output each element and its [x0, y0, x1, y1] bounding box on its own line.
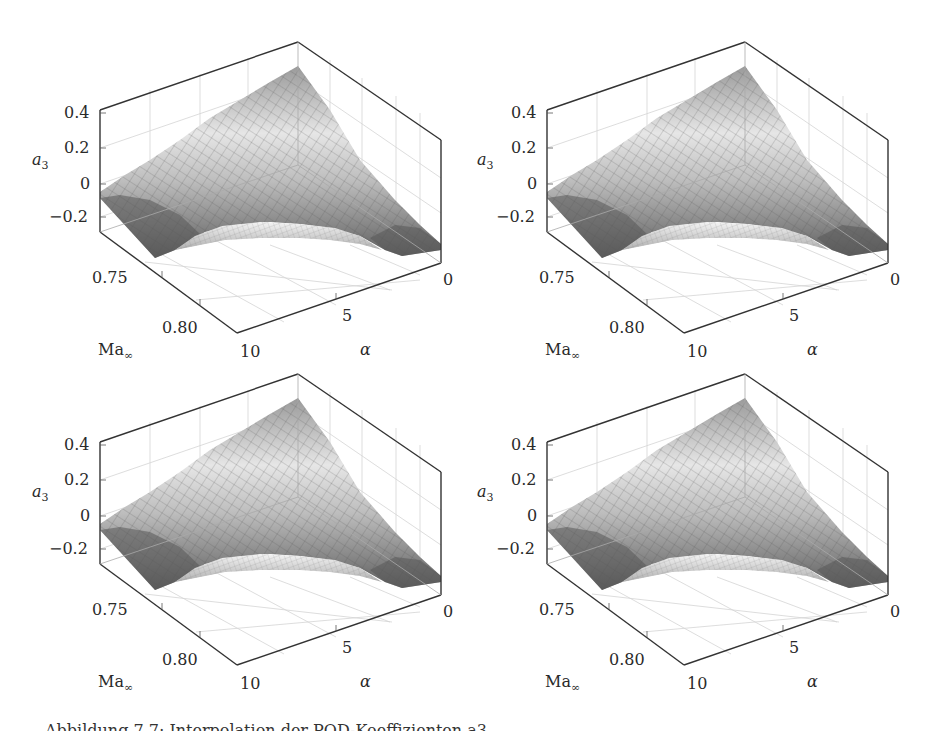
mach-tick-0.75: 0.75 — [92, 600, 128, 619]
z-tick-neg0.2: −0.2 — [49, 207, 88, 226]
surface-plot-top-left: 0.4 0.2 0 −0.2 a3 0.75 0.80 Ma∞ 0 5 10 α — [0, 0, 469, 365]
alpha-tick-0: 0 — [890, 270, 900, 289]
surface-plot-graphic — [447, 332, 916, 697]
alpha-axis-label: α — [807, 672, 818, 691]
z-tick-0.2: 0.2 — [511, 138, 536, 157]
z-tick-0: 0 — [527, 506, 537, 525]
surface-plot-graphic — [0, 332, 469, 697]
z-tick-0: 0 — [80, 506, 90, 525]
z-tick-0.4: 0.4 — [64, 435, 89, 454]
z-tick-neg0.2: −0.2 — [49, 539, 88, 558]
z-axis-label: a3 — [477, 150, 494, 172]
z-tick-0.2: 0.2 — [511, 470, 536, 489]
mach-tick-0.75: 0.75 — [539, 268, 575, 287]
alpha-tick-5: 5 — [342, 638, 352, 657]
z-axis-label: a3 — [477, 482, 494, 504]
alpha-tick-10: 10 — [240, 674, 260, 693]
z-tick-0.4: 0.4 — [511, 435, 536, 454]
z-tick-0.2: 0.2 — [64, 138, 89, 157]
surface-plot-bottom-right: 0.4 0.2 0 −0.2 a3 0.75 0.80 Ma∞ 0 5 10 α — [447, 332, 916, 697]
surface-plot-graphic — [447, 0, 916, 365]
mach-axis-label: Ma∞ — [98, 672, 133, 694]
alpha-tick-10: 10 — [687, 674, 707, 693]
mach-tick-0.80: 0.80 — [162, 650, 198, 669]
mach-tick-0.75: 0.75 — [539, 600, 575, 619]
z-tick-neg0.2: −0.2 — [496, 539, 535, 558]
alpha-tick-5: 5 — [789, 638, 799, 657]
alpha-tick-5: 5 — [789, 306, 799, 325]
z-tick-0: 0 — [527, 174, 537, 193]
alpha-tick-5: 5 — [342, 306, 352, 325]
z-tick-0.4: 0.4 — [64, 103, 89, 122]
figure-caption: Abbildung 7.7: Interpolation der POD-Koe… — [45, 718, 925, 731]
mach-tick-0.80: 0.80 — [609, 650, 645, 669]
surface-plot-graphic — [0, 0, 469, 365]
mach-axis-label: Ma∞ — [545, 672, 580, 694]
z-tick-0.2: 0.2 — [64, 470, 89, 489]
mach-tick-0.75: 0.75 — [92, 268, 128, 287]
surface-plot-bottom-left: 0.4 0.2 0 −0.2 a3 0.75 0.80 Ma∞ 0 5 10 α — [0, 332, 469, 697]
z-tick-0: 0 — [80, 174, 90, 193]
z-tick-neg0.2: −0.2 — [496, 207, 535, 226]
z-axis-label: a3 — [32, 482, 49, 504]
alpha-tick-0: 0 — [890, 602, 900, 621]
z-tick-0.4: 0.4 — [511, 103, 536, 122]
alpha-axis-label: α — [360, 672, 371, 691]
surface-plot-top-right: 0.4 0.2 0 −0.2 a3 0.75 0.80 Ma∞ 0 5 10 α — [447, 0, 916, 365]
z-axis-label: a3 — [32, 150, 49, 172]
